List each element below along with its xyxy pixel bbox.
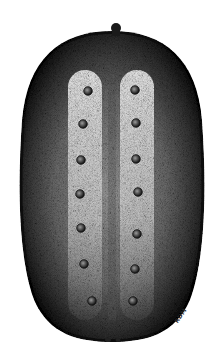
light-band-left	[68, 70, 102, 320]
tubercle	[131, 86, 140, 95]
tubercle	[133, 230, 142, 239]
seed-stem	[100, 23, 132, 38]
tubercle	[134, 188, 143, 197]
tubercle	[131, 265, 140, 274]
tubercle	[79, 120, 88, 129]
tubercle	[88, 297, 97, 306]
tubercle	[77, 156, 86, 165]
tubercle	[77, 224, 86, 233]
tubercle	[132, 155, 141, 164]
seed-illustration	[0, 0, 224, 355]
tubercle	[80, 260, 89, 269]
tubercle	[84, 87, 93, 96]
tubercle	[129, 297, 138, 306]
tubercle	[132, 119, 141, 128]
seed-body	[20, 31, 205, 342]
tubercle	[76, 190, 85, 199]
